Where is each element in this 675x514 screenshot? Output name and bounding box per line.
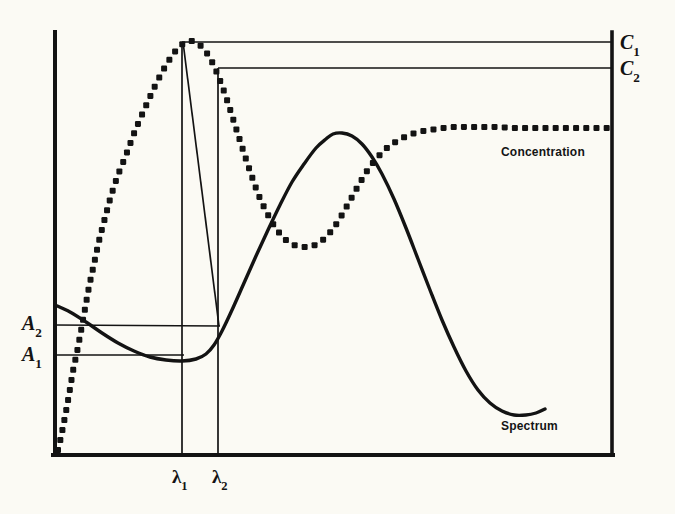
concentration-dot bbox=[82, 307, 88, 313]
concentration-dot bbox=[276, 230, 282, 236]
concentration-dot bbox=[120, 159, 126, 165]
concentration-dot bbox=[147, 93, 153, 99]
guide-line-a2 bbox=[55, 325, 220, 326]
concentration-dot bbox=[90, 267, 96, 273]
spectrum-curve-label: Spectrum bbox=[501, 419, 558, 433]
concentration-dot bbox=[249, 175, 255, 181]
concentration-dot bbox=[110, 188, 116, 194]
concentration-dot bbox=[152, 84, 158, 90]
label-lambda2-base: λ bbox=[212, 466, 221, 487]
concentration-dot bbox=[461, 124, 467, 130]
concentration-dot bbox=[283, 237, 289, 243]
concentration-dot bbox=[143, 102, 149, 108]
concentration-dot bbox=[55, 447, 61, 453]
label-c2-base: C bbox=[620, 57, 633, 79]
concentration-dot bbox=[532, 125, 538, 131]
concentration-dot bbox=[344, 204, 350, 210]
label-lambda1-base: λ bbox=[172, 466, 181, 487]
concentration-dot bbox=[240, 146, 246, 152]
concentration-dot bbox=[94, 247, 100, 253]
concentration-dot bbox=[68, 377, 74, 383]
concentration-dot bbox=[74, 347, 80, 353]
concentration-dot bbox=[553, 125, 559, 131]
concentration-dot bbox=[420, 128, 426, 134]
concentration-dot bbox=[583, 125, 589, 131]
concentration-dot bbox=[139, 112, 145, 118]
concentration-dot bbox=[85, 287, 91, 293]
concentration-dot bbox=[333, 221, 339, 227]
concentration-dot bbox=[253, 184, 259, 190]
concentration-dot bbox=[502, 124, 508, 130]
label-a2-subscript: 2 bbox=[35, 325, 42, 340]
concentration-dot bbox=[471, 124, 477, 130]
concentration-dot bbox=[204, 50, 210, 56]
concentration-dot bbox=[61, 417, 67, 423]
concentration-dot bbox=[72, 357, 78, 363]
concentration-dot bbox=[327, 229, 333, 235]
spectrum-concentration-figure: C1 C2 A2 A1 λ1 λ2 Concentration Spectrum bbox=[0, 0, 675, 514]
spectrum-curve bbox=[55, 133, 545, 416]
label-c2: C2 bbox=[620, 57, 640, 84]
concentration-dot bbox=[221, 88, 227, 94]
concentration-dot bbox=[67, 387, 73, 393]
concentration-dot bbox=[213, 69, 219, 75]
concentration-dot bbox=[384, 145, 390, 151]
concentration-dot bbox=[261, 203, 267, 209]
concentration-dot bbox=[243, 156, 249, 162]
concentration-dot bbox=[99, 227, 105, 233]
concentration-dot bbox=[166, 57, 172, 63]
concentration-dot bbox=[209, 59, 215, 65]
concentration-dot bbox=[354, 186, 360, 192]
concentration-dot bbox=[265, 212, 271, 218]
concentration-dot bbox=[349, 195, 355, 201]
concentration-dot bbox=[256, 194, 262, 200]
concentration-dot bbox=[116, 168, 122, 174]
concentration-dot bbox=[63, 407, 69, 413]
concentration-dot bbox=[270, 221, 276, 227]
concentration-dot bbox=[65, 397, 71, 403]
concentration-dot bbox=[161, 66, 167, 72]
concentration-dot bbox=[563, 125, 569, 131]
concentration-dot bbox=[230, 117, 236, 123]
concentration-dot bbox=[84, 297, 90, 303]
concentration-dot bbox=[392, 139, 398, 145]
concentration-dot bbox=[131, 130, 137, 136]
concentration-dot bbox=[198, 43, 204, 49]
concentration-dot bbox=[430, 126, 436, 132]
concentration-dot bbox=[59, 427, 65, 433]
concentration-dot bbox=[292, 242, 298, 248]
label-c1-base: C bbox=[620, 31, 633, 53]
concentration-dot bbox=[76, 337, 82, 343]
concentration-dot bbox=[107, 197, 113, 203]
guide-line-c1-to-a2 bbox=[183, 42, 219, 326]
concentration-dot bbox=[127, 140, 133, 146]
label-a2-base: A bbox=[22, 312, 35, 334]
concentration-dot bbox=[339, 212, 345, 218]
concentration-dot bbox=[512, 125, 518, 131]
concentration-dot bbox=[92, 257, 98, 263]
label-a1: A1 bbox=[22, 343, 42, 370]
concentration-dot bbox=[172, 48, 178, 54]
concentration-dot bbox=[156, 75, 162, 81]
concentration-dot bbox=[364, 168, 370, 174]
concentration-dot bbox=[401, 134, 407, 140]
concentration-dot bbox=[377, 152, 383, 158]
concentration-dot bbox=[227, 107, 233, 113]
concentration-dot bbox=[604, 125, 610, 131]
concentration-dot bbox=[522, 125, 528, 131]
concentration-dot bbox=[593, 125, 599, 131]
concentration-dot bbox=[88, 277, 94, 283]
concentration-dot bbox=[370, 160, 376, 166]
concentration-dot bbox=[189, 38, 195, 44]
label-c2-subscript: 2 bbox=[633, 70, 640, 85]
label-lambda2: λ2 bbox=[212, 466, 228, 492]
concentration-dot bbox=[78, 327, 84, 333]
concentration-dot bbox=[236, 136, 242, 142]
concentration-dot bbox=[451, 124, 457, 130]
concentration-dot bbox=[113, 178, 119, 184]
concentration-dot bbox=[542, 125, 548, 131]
concentration-dot bbox=[573, 125, 579, 131]
concentration-dot bbox=[104, 207, 110, 213]
concentration-dot bbox=[80, 317, 86, 323]
concentration-dot bbox=[101, 217, 107, 223]
